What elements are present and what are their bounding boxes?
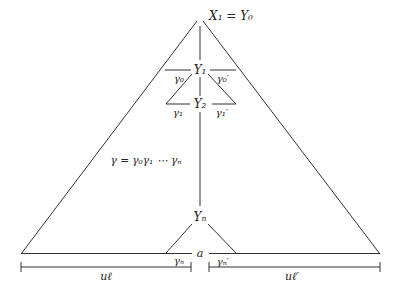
yn-label: Yₙ [194, 210, 207, 224]
lower-left-edge [166, 224, 192, 253]
apex-label: X₁ = Y₀ [208, 9, 253, 23]
lower-right-edge [208, 224, 236, 253]
gamma-n-prime-label: γₙ′ [217, 256, 230, 267]
u-left-label: uℓ [100, 270, 112, 283]
gamma-n-label: γₙ [174, 255, 184, 266]
gamma-product-label: γ = γ₀γ₁ ⋯ γₙ [111, 154, 182, 166]
outer-right-edge [203, 21, 380, 254]
outer-left-edge [21, 21, 197, 254]
gamma1-label: γ₁ [173, 107, 183, 118]
tree-triangle-diagram: X₁ = Y₀ Y₁ γ₀ γ₀′ Y₂ γ₁ γ₁′ γ = γ₀γ₁ ⋯ γ… [0, 0, 400, 295]
u-right-label: uℓ′ [285, 270, 300, 283]
y2-label: Y₂ [194, 97, 207, 111]
gamma0-label: γ₀ [174, 73, 184, 84]
gamma0-prime-label: γ₀′ [217, 73, 230, 84]
gamma1-prime-label: γ₁′ [216, 107, 229, 118]
y1-label: Y₁ [194, 63, 207, 77]
base-point-label: a [197, 247, 204, 260]
